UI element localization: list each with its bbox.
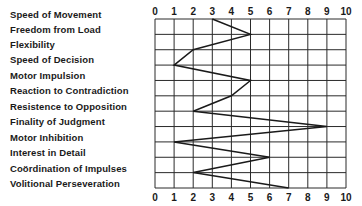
chart-grid	[155, 19, 346, 188]
x-tick-label: 3	[210, 6, 216, 17]
x-tick-label: 6	[267, 6, 273, 17]
x-tick-label: 6	[267, 192, 273, 203]
x-tick-label: 1	[171, 192, 177, 203]
profile-chart: 012345678910 012345678910	[0, 0, 362, 206]
x-tick-label: 10	[340, 192, 352, 203]
x-tick-label: 5	[248, 6, 254, 17]
x-tick-label: 0	[152, 192, 158, 203]
x-tick-label: 1	[171, 6, 177, 17]
x-tick-label: 8	[305, 192, 311, 203]
x-tick-label: 5	[248, 192, 254, 203]
x-tick-label: 2	[190, 192, 196, 203]
x-tick-label: 8	[305, 6, 311, 17]
x-tick-label: 7	[286, 192, 292, 203]
x-tick-label: 10	[340, 6, 352, 17]
x-tick-label: 9	[324, 192, 330, 203]
x-tick-label: 3	[210, 192, 216, 203]
x-tick-label: 4	[229, 192, 235, 203]
x-tick-label: 9	[324, 6, 330, 17]
x-axis-bottom-ticks: 012345678910	[152, 192, 352, 203]
x-tick-label: 0	[152, 6, 158, 17]
x-axis-top-ticks: 012345678910	[152, 6, 352, 17]
x-tick-label: 7	[286, 6, 292, 17]
x-tick-label: 2	[190, 6, 196, 17]
x-tick-label: 4	[229, 6, 235, 17]
